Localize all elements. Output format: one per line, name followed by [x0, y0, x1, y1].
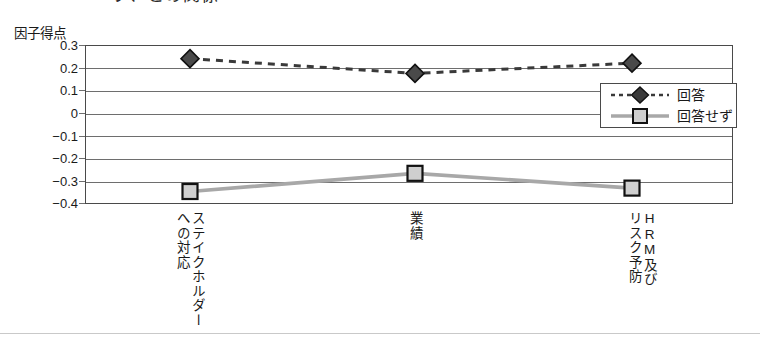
legend-entry-not-answered: 回答せず [601, 105, 736, 127]
x-axis-label-column-sub: リスク予防 [627, 211, 642, 284]
legend-swatch-square-icon [609, 105, 671, 127]
y-tick-label: −0.1 [18, 130, 78, 143]
x-axis-label-column-main: ステイクホルダー [190, 211, 205, 327]
x-axis-label-column-main: HRM及び [642, 211, 657, 287]
gridline [86, 182, 732, 183]
x-axis-label-column-main: 業績 [408, 211, 423, 240]
x-axis-label-hrm-risk: HRM及び リスク予防 [596, 211, 688, 287]
legend-label: 回答せず [677, 108, 733, 124]
gridline [86, 68, 732, 69]
y-tick-label: −0.3 [18, 175, 78, 188]
y-tick-label: 0.3 [18, 39, 78, 52]
x-axis-label-column-sub: への対応 [175, 211, 190, 269]
legend-swatch-diamond-icon [609, 84, 671, 106]
x-axis-label-performance: 業績 [380, 211, 450, 240]
page-bottom-rule [0, 333, 760, 334]
gridline [86, 159, 732, 160]
gridline [86, 136, 732, 137]
y-tick-label: 0.2 [18, 62, 78, 75]
chart-title: ブ、との関係 [112, 0, 352, 4]
y-tick-label: 0 [18, 107, 78, 120]
x-axis-label-stakeholder: ステイクホルダー への対応 [142, 211, 238, 327]
legend-entry-answered: 回答 [601, 84, 736, 106]
y-tick-label: −0.2 [18, 152, 78, 165]
y-tick-label: −0.4 [18, 197, 78, 210]
y-tick-label: 0.1 [18, 84, 78, 97]
chart-legend: 回答 回答せず [600, 83, 737, 128]
legend-label: 回答 [677, 87, 705, 103]
